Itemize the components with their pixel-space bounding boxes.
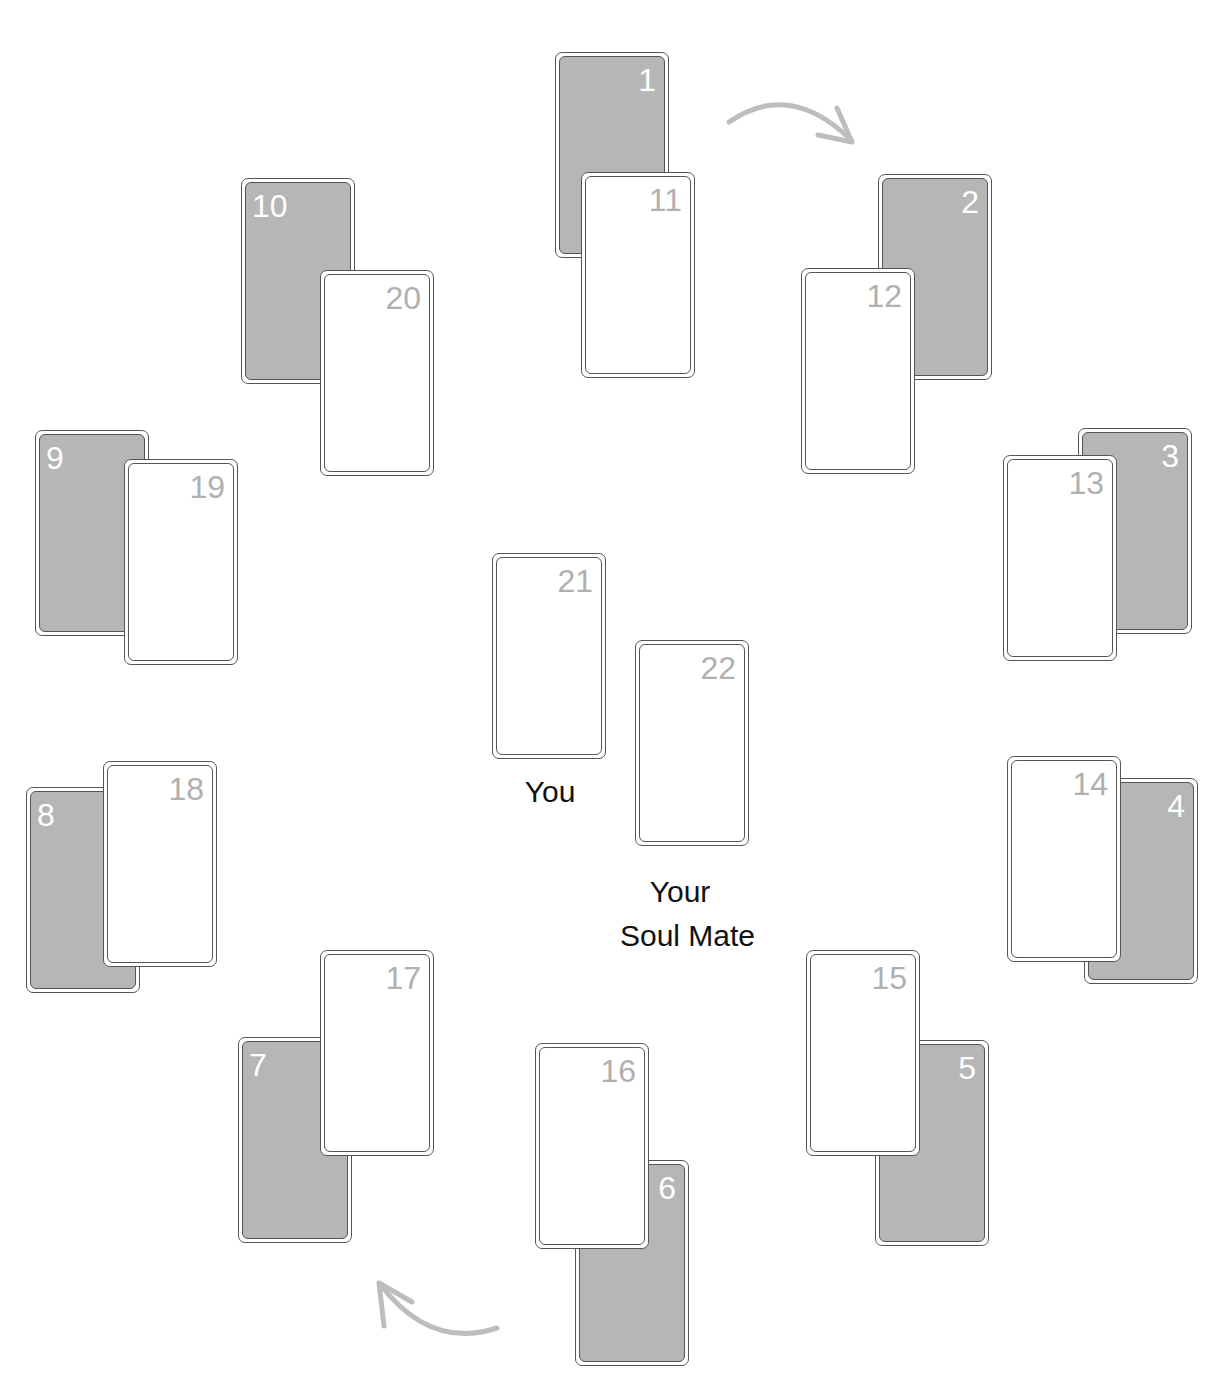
card-number: 18	[168, 772, 204, 806]
card-face: 11	[585, 176, 691, 374]
card-number: 1	[638, 63, 656, 97]
card-22-faceup[interactable]: 22	[635, 640, 749, 846]
card-number: 10	[252, 189, 288, 223]
card-number: 21	[557, 564, 593, 598]
card-number: 5	[958, 1051, 976, 1085]
card-face: 12	[805, 272, 911, 470]
card-21-faceup[interactable]: 21	[492, 553, 606, 759]
card-face: 20	[324, 274, 430, 472]
card-11-faceup[interactable]: 11	[581, 172, 695, 378]
card-number: 11	[649, 183, 682, 217]
card-12-faceup[interactable]: 12	[801, 268, 915, 474]
tarot-spread-diagram: 11121231341451561671781891910202122 You …	[0, 0, 1230, 1394]
card-number: 19	[189, 470, 225, 504]
label-soul-mate-line2: Soul Mate	[600, 918, 775, 954]
card-16-faceup[interactable]: 16	[535, 1043, 649, 1249]
card-number: 3	[1161, 439, 1179, 473]
card-number: 8	[37, 798, 55, 832]
card-number: 14	[1072, 767, 1108, 801]
card-face: 19	[128, 463, 234, 661]
card-face: 15	[810, 954, 916, 1152]
card-19-faceup[interactable]: 19	[124, 459, 238, 665]
clockwise-arrow-top-icon	[729, 105, 852, 142]
card-20-faceup[interactable]: 20	[320, 270, 434, 476]
card-number: 4	[1167, 789, 1185, 823]
card-number: 22	[700, 651, 736, 685]
card-number: 17	[385, 961, 421, 995]
card-18-faceup[interactable]: 18	[103, 761, 217, 967]
card-number: 12	[866, 279, 902, 313]
card-face: 14	[1011, 760, 1117, 958]
label-you: You	[517, 774, 583, 810]
card-number: 2	[961, 185, 979, 219]
card-number: 15	[871, 961, 907, 995]
card-number: 9	[46, 441, 64, 475]
card-14-faceup[interactable]: 14	[1007, 756, 1121, 962]
card-number: 13	[1068, 466, 1104, 500]
clockwise-arrow-bottom-icon	[379, 1283, 497, 1334]
card-face: 13	[1007, 459, 1113, 657]
card-number: 20	[385, 281, 421, 315]
card-face: 21	[496, 557, 602, 755]
card-number: 6	[658, 1171, 676, 1205]
card-13-faceup[interactable]: 13	[1003, 455, 1117, 661]
card-face: 17	[324, 954, 430, 1152]
card-number: 7	[249, 1048, 267, 1082]
card-17-faceup[interactable]: 17	[320, 950, 434, 1156]
label-soul-mate-line1: Your	[615, 874, 745, 910]
card-face: 22	[639, 644, 745, 842]
card-15-faceup[interactable]: 15	[806, 950, 920, 1156]
card-face: 16	[539, 1047, 645, 1245]
card-number: 16	[600, 1054, 636, 1088]
card-face: 18	[107, 765, 213, 963]
